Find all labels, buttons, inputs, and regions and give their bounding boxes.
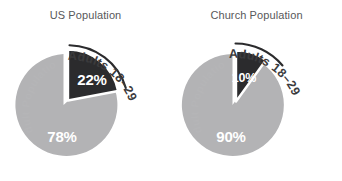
chart-title-us-population: US Population <box>0 9 171 21</box>
value-label-adults-18-29: 10% <box>232 71 257 85</box>
pie-chart-church-population: 90% 10% Adult Population Adults 18–29 <box>171 34 342 181</box>
chart-panel-church-population: Church Population 90% 10% Adult Populati… <box>171 0 342 181</box>
value-label-adult-population: 90% <box>216 128 245 145</box>
value-label-adults-18-29: 22% <box>77 71 106 88</box>
pie-chart-figure: US Population 78% 22% Adult Population <box>0 0 342 181</box>
pie-chart-us-population: 78% 22% Adult Population Adults 18–29 <box>0 34 171 181</box>
value-label-adult-population: 78% <box>47 128 76 145</box>
chart-title-church-population: Church Population <box>171 9 342 21</box>
chart-panel-us-population: US Population 78% 22% Adult Population <box>0 0 171 181</box>
